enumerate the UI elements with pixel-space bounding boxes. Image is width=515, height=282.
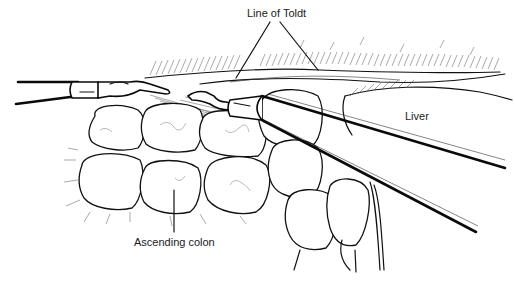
peritoneum-hatching [150, 37, 499, 75]
ascending-colon [64, 103, 270, 232]
hepatic-flexure [258, 90, 384, 272]
surgical-illustration: Line of Toldt Liver Ascending colon [0, 0, 515, 282]
illustration-drawing [0, 0, 515, 282]
label-ascending-colon: Ascending colon [134, 236, 215, 248]
label-line-of-toldt: Line of Toldt [247, 7, 306, 19]
line-of-toldt-band [145, 69, 505, 84]
left-grasper [16, 81, 170, 104]
label-liver: Liver [405, 110, 429, 122]
